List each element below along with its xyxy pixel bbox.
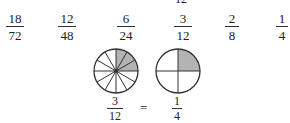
numerator: 18	[9, 12, 22, 25]
fraction-bar	[225, 26, 239, 27]
fraction-1-4: 1 4	[276, 12, 288, 42]
cutoff-text: 12	[175, 0, 187, 5]
fraction-bar	[117, 26, 135, 27]
denominator: 12	[109, 111, 121, 122]
fraction-bar	[58, 26, 76, 27]
fraction-18-72: 18 72	[6, 12, 24, 42]
denominator: 24	[120, 29, 133, 42]
denominator: 48	[61, 29, 74, 42]
denominator: 12	[177, 29, 190, 42]
fraction-3-12: 3 12	[174, 12, 192, 42]
numerator: 12	[61, 12, 74, 25]
right-circle-fraction: 1 4	[172, 96, 182, 122]
fraction-2-8: 2 8	[225, 12, 239, 42]
numerator: 3	[180, 12, 187, 25]
fraction-bar	[174, 26, 192, 27]
denominator: 4	[279, 29, 286, 42]
numerator: 6	[123, 12, 130, 25]
denominator: 8	[229, 29, 236, 42]
numerator: 1	[174, 96, 180, 107]
denominator: 4	[174, 111, 180, 122]
denominator: 72	[9, 29, 22, 42]
twelfths-circle	[92, 47, 140, 95]
fraction-12-48: 12 48	[58, 12, 76, 42]
numerator: 1	[279, 12, 286, 25]
fraction-bar	[276, 26, 288, 27]
quarters-circle	[154, 47, 202, 95]
fraction-bar	[6, 26, 24, 27]
equals-sign: =	[140, 100, 147, 116]
left-circle-fraction: 3 12	[107, 96, 123, 122]
numerator: 3	[112, 96, 118, 107]
numerator: 2	[229, 12, 236, 25]
fraction-6-24: 6 24	[117, 12, 135, 42]
